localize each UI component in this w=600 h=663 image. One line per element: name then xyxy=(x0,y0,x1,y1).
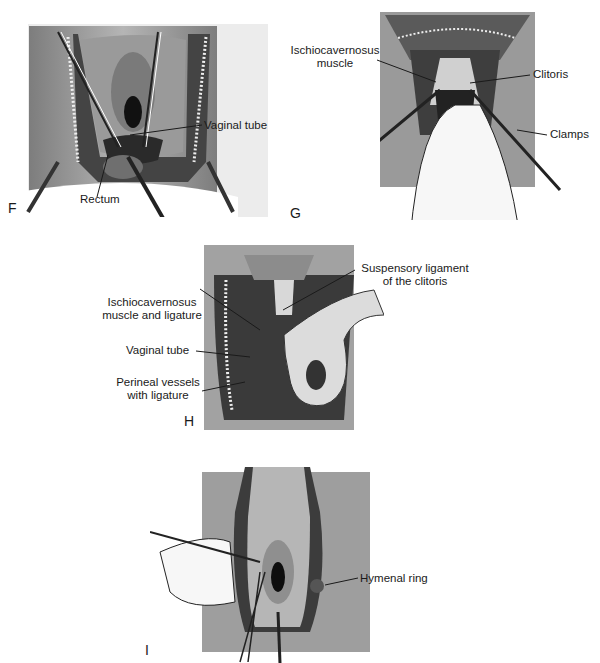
panel-g: G xyxy=(380,10,590,220)
panel-h: H xyxy=(204,245,384,430)
label-g-ischiocavernosus-muscle: Ischiocavernosus muscle xyxy=(290,44,380,70)
panel-f-illustration xyxy=(18,12,268,217)
panel-h-illustration xyxy=(204,245,384,430)
panel-g-illustration xyxy=(380,10,590,220)
label-h-ischiocavernosus-ligature: Ischiocavernosus muscle and ligature xyxy=(102,296,202,322)
panel-f: F xyxy=(18,12,268,217)
label-line: Perineal vessels xyxy=(112,376,204,389)
label-line: with ligature xyxy=(112,389,204,402)
panel-letter-g: G xyxy=(290,205,301,221)
panel-i-illustration xyxy=(150,462,370,663)
label-f-vaginal-tube: Vaginal tube xyxy=(204,119,267,132)
surgical-illustration-plate: F G H xyxy=(0,0,600,663)
panel-letter-h: H xyxy=(184,413,194,429)
label-line: Ischiocavernosus xyxy=(102,296,202,309)
label-f-rectum: Rectum xyxy=(80,193,120,206)
label-h-suspensory-ligament: Suspensory ligament of the clitoris xyxy=(360,262,470,288)
label-g-clitoris: Clitoris xyxy=(533,68,568,81)
label-line: Ischiocavernosus xyxy=(290,44,380,57)
label-line: of the clitoris xyxy=(360,275,470,288)
label-line: Suspensory ligament xyxy=(360,262,470,275)
panel-letter-i: I xyxy=(145,642,149,658)
label-line: muscle xyxy=(290,57,380,70)
label-line: muscle and ligature xyxy=(102,309,202,322)
panel-i: I xyxy=(150,462,370,663)
label-h-perineal-vessels: Perineal vessels with ligature xyxy=(112,376,204,402)
label-i-hymenal-ring: Hymenal ring xyxy=(360,572,428,585)
label-g-clamps: Clamps xyxy=(550,128,589,141)
label-h-vaginal-tube: Vaginal tube xyxy=(126,344,189,357)
panel-letter-f: F xyxy=(8,200,17,216)
